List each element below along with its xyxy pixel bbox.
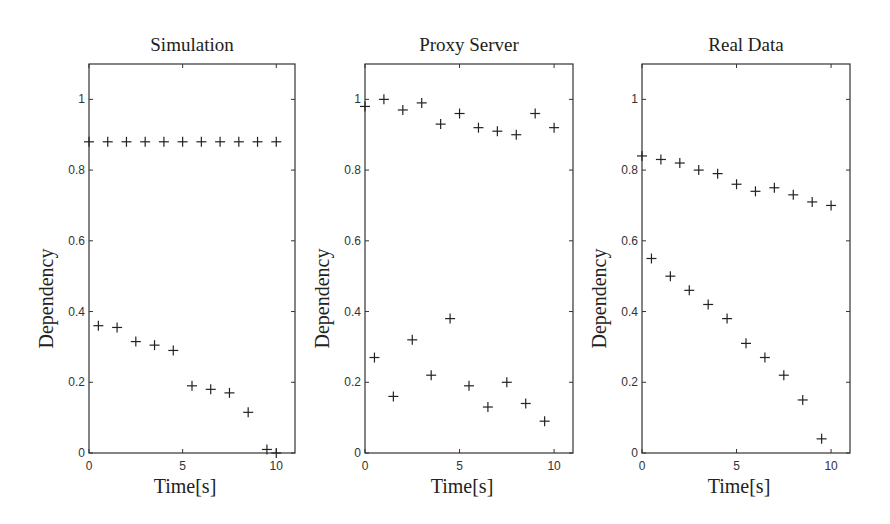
y-tick-label: 0.6 [344, 234, 361, 248]
plus-marker-icon [807, 197, 817, 207]
y-tick-label: 0.4 [621, 305, 638, 319]
y-tick-label: 0 [354, 446, 361, 460]
plus-marker-icon [492, 126, 502, 136]
x-tick-label: 0 [362, 459, 369, 473]
y-tick-label: 0.8 [68, 163, 85, 177]
y-axis-label: Dependency [35, 249, 58, 349]
plus-marker-icon [369, 353, 379, 363]
x-tick-label: 5 [456, 459, 463, 473]
plus-marker-icon [112, 322, 122, 332]
y-tick-label: 0.8 [344, 163, 361, 177]
x-tick-label: 10 [547, 459, 561, 473]
plus-marker-icon [760, 353, 770, 363]
y-axis-label: Dependency [311, 249, 334, 349]
y-tick-label: 0 [631, 446, 638, 460]
plus-marker-icon [84, 137, 94, 147]
plus-marker-icon [224, 388, 234, 398]
plus-marker-icon [521, 398, 531, 408]
x-tick-label: 5 [179, 459, 186, 473]
axes-frame [89, 64, 295, 453]
plus-marker-icon [511, 130, 521, 140]
plus-marker-icon [750, 186, 760, 196]
subplot-title: Simulation [150, 34, 234, 55]
plus-marker-icon [253, 137, 263, 147]
plus-marker-icon [121, 137, 131, 147]
subplot-title: Proxy Server [419, 34, 519, 55]
plus-marker-icon [407, 335, 417, 345]
plus-marker-icon [206, 384, 216, 394]
subplot-simulation: Simulation00.20.40.60.810510Time[s]Depen… [35, 34, 295, 497]
plus-marker-icon [684, 285, 694, 295]
y-tick-label: 0.4 [68, 305, 85, 319]
plus-marker-icon [243, 407, 253, 417]
plus-marker-icon [93, 321, 103, 331]
plus-marker-icon [436, 119, 446, 129]
y-tick-label: 0.4 [344, 305, 361, 319]
plus-marker-icon [637, 151, 647, 161]
plus-marker-icon [732, 179, 742, 189]
y-tick-label: 0.2 [344, 375, 361, 389]
plus-marker-icon [741, 338, 751, 348]
axes-frame [642, 64, 850, 453]
plus-marker-icon [150, 340, 160, 350]
plus-marker-icon [379, 94, 389, 104]
plus-marker-icon [140, 137, 150, 147]
plus-marker-icon [502, 377, 512, 387]
plus-marker-icon [168, 345, 178, 355]
plus-marker-icon [713, 169, 723, 179]
plus-marker-icon [196, 137, 206, 147]
plus-marker-icon [426, 370, 436, 380]
figure: Simulation00.20.40.60.810510Time[s]Depen… [0, 0, 890, 524]
y-tick-label: 0.2 [621, 375, 638, 389]
y-tick-label: 0.2 [68, 375, 85, 389]
series-upper [637, 151, 836, 211]
y-tick-label: 0.8 [621, 163, 638, 177]
plus-marker-icon [271, 448, 281, 458]
plus-marker-icon [455, 109, 465, 119]
subplot-real-data: Real Data00.20.40.60.810510Time[s]Depend… [588, 34, 850, 497]
x-tick-label: 5 [733, 459, 740, 473]
plus-marker-icon [779, 370, 789, 380]
x-axis-label: Time[s] [708, 475, 771, 497]
plus-marker-icon [215, 137, 225, 147]
x-tick-label: 10 [824, 459, 838, 473]
series-upper [84, 137, 281, 147]
plus-marker-icon [473, 123, 483, 133]
plus-marker-icon [159, 137, 169, 147]
plus-marker-icon [549, 123, 559, 133]
plus-marker-icon [675, 158, 685, 168]
axes-frame [365, 64, 573, 453]
x-tick-label: 0 [86, 459, 93, 473]
plus-marker-icon [388, 391, 398, 401]
plus-marker-icon [788, 190, 798, 200]
plus-marker-icon [464, 381, 474, 391]
y-tick-label: 0.6 [621, 234, 638, 248]
subplot-title: Real Data [708, 34, 784, 55]
plus-marker-icon [131, 337, 141, 347]
y-axis-label: Dependency [588, 249, 611, 349]
y-tick-label: 1 [354, 92, 361, 106]
plus-marker-icon [360, 101, 370, 111]
plus-marker-icon [103, 137, 113, 147]
plus-marker-icon [656, 154, 666, 164]
plus-marker-icon [178, 137, 188, 147]
plus-marker-icon [703, 299, 713, 309]
x-tick-label: 10 [270, 459, 284, 473]
plus-marker-icon [271, 137, 281, 147]
plus-marker-icon [826, 200, 836, 210]
subplot-proxy-server: Proxy Server00.20.40.60.810510Time[s]Dep… [311, 34, 573, 497]
plus-marker-icon [187, 381, 197, 391]
x-axis-label: Time[s] [431, 475, 494, 497]
plus-marker-icon [234, 137, 244, 147]
y-tick-label: 0.6 [68, 234, 85, 248]
plus-marker-icon [694, 165, 704, 175]
plus-marker-icon [483, 402, 493, 412]
series-lower [93, 321, 281, 458]
plus-marker-icon [646, 254, 656, 264]
plus-marker-icon [445, 314, 455, 324]
series-lower [369, 314, 549, 427]
plus-marker-icon [722, 314, 732, 324]
plus-marker-icon [665, 271, 675, 281]
y-tick-label: 1 [631, 92, 638, 106]
series-upper [360, 94, 559, 139]
